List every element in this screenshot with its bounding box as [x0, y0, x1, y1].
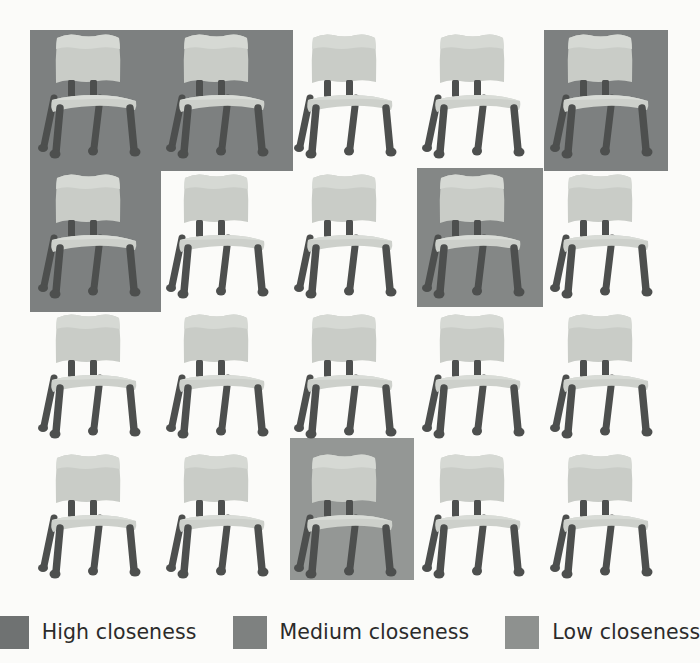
- chair-leg-front-left: [56, 108, 60, 152]
- chair-cell-r3-c1: [30, 308, 156, 450]
- legend-swatch-low: [505, 616, 539, 649]
- chair-back-post-right: [346, 80, 353, 97]
- chair-backrest-highlight: [568, 34, 632, 49]
- chair-backrest-highlight: [184, 174, 248, 189]
- chair-illustration: [414, 28, 540, 170]
- chair-backrest-highlight: [312, 454, 376, 469]
- chair-back-post-right: [346, 360, 353, 377]
- chair-illustration: [286, 168, 412, 310]
- chair-leg-front-left: [56, 528, 60, 572]
- chair-leg-front-right: [514, 108, 518, 150]
- chair-illustration: [158, 308, 284, 450]
- chair-leg-front-left: [568, 108, 572, 152]
- chair-foot-front-left: [434, 430, 445, 439]
- chair-foot-front-left: [562, 570, 573, 579]
- chair-foot-rear-right: [344, 287, 354, 296]
- chair-cell-r2-c2: [158, 168, 284, 310]
- chair-foot-rear-left: [550, 284, 560, 292]
- chair-leg-front-left: [440, 248, 444, 292]
- chair-leg-front-left: [312, 108, 316, 152]
- chair-cell-r4-c4: [414, 448, 540, 590]
- chair-illustration: [286, 308, 412, 450]
- chair-foot-front-left: [178, 430, 189, 439]
- chair-cell-r2-c3: [286, 168, 412, 310]
- chair-foot-rear-left: [294, 424, 304, 432]
- chair-backrest-highlight: [56, 454, 120, 469]
- chair-back-post-right: [346, 220, 353, 237]
- chair-foot-front-right: [514, 428, 525, 437]
- chair-leg-front-right: [642, 248, 646, 290]
- chair-foot-rear-left: [422, 144, 432, 152]
- chair-illustration: [158, 168, 284, 310]
- chair-foot-rear-right: [88, 567, 98, 576]
- chair-leg-front-left: [184, 388, 188, 432]
- chair-foot-front-left: [434, 150, 445, 159]
- chair-foot-rear-left: [38, 424, 48, 432]
- chair-illustration: [30, 448, 156, 590]
- legend-item-low: Low closeness: [505, 616, 700, 649]
- chair-leg-front-left: [568, 528, 572, 572]
- chair-back-post-right: [474, 220, 481, 237]
- chair-back-post-left: [324, 500, 331, 517]
- chair-foot-rear-right: [472, 147, 482, 156]
- chair-foot-front-right: [514, 148, 525, 157]
- chair-illustration: [158, 28, 284, 170]
- chair-leg-front-right: [642, 108, 646, 150]
- chair-foot-front-right: [642, 288, 653, 297]
- chair-cell-r3-c5: [542, 308, 668, 450]
- chair-cell-r4-c3: [286, 448, 412, 590]
- chair-leg-front-left: [312, 388, 316, 432]
- chair-back-post-left: [68, 500, 75, 517]
- chair-foot-front-right: [642, 428, 653, 437]
- chair-leg-front-right: [130, 108, 134, 150]
- legend: High closenessMedium closenessLow closen…: [0, 607, 695, 657]
- chair-backrest-highlight: [568, 454, 632, 469]
- chair-back-post-left: [452, 220, 459, 237]
- chair-foot-rear-left: [550, 424, 560, 432]
- chair-back-post-left: [196, 220, 203, 237]
- chair-foot-front-left: [434, 570, 445, 579]
- chair-foot-front-left: [50, 150, 61, 159]
- chair-cell-r3-c4: [414, 308, 540, 450]
- chair-illustration: [30, 168, 156, 310]
- chair-back-post-left: [580, 360, 587, 377]
- legend-swatch-medium: [233, 616, 267, 649]
- chair-illustration: [542, 448, 668, 590]
- chair-backrest-highlight: [184, 454, 248, 469]
- chair-leg-front-left: [184, 248, 188, 292]
- chair-foot-rear-right: [88, 427, 98, 436]
- chair-cell-r4-c1: [30, 448, 156, 590]
- chair-foot-rear-right: [88, 147, 98, 156]
- chair-foot-rear-left: [294, 284, 304, 292]
- chair-back-post-left: [580, 500, 587, 517]
- chair-foot-rear-right: [216, 567, 226, 576]
- chair-foot-rear-left: [166, 564, 176, 572]
- chair-foot-front-right: [386, 568, 397, 577]
- chair-foot-rear-right: [472, 567, 482, 576]
- chair-leg-front-left: [56, 388, 60, 432]
- chair-back-post-right: [218, 80, 225, 97]
- chair-illustration: [542, 28, 668, 170]
- chair-back-post-left: [452, 360, 459, 377]
- chair-cell-r3-c2: [158, 308, 284, 450]
- chair-foot-rear-left: [422, 424, 432, 432]
- chair-back-post-left: [324, 80, 331, 97]
- chair-foot-rear-right: [88, 287, 98, 296]
- chair-backrest-highlight: [184, 314, 248, 329]
- chair-foot-rear-right: [344, 147, 354, 156]
- chair-foot-front-left: [562, 430, 573, 439]
- chair-back-post-right: [474, 360, 481, 377]
- chair-foot-front-right: [258, 428, 269, 437]
- chair-back-post-left: [196, 360, 203, 377]
- chair-leg-front-right: [386, 528, 390, 570]
- chair-foot-rear-left: [550, 144, 560, 152]
- chair-illustration: [158, 448, 284, 590]
- chair-illustration: [30, 28, 156, 170]
- chair-foot-front-left: [178, 570, 189, 579]
- legend-item-high: High closeness: [0, 616, 233, 649]
- chair-back-post-left: [196, 80, 203, 97]
- chair-leg-front-left: [568, 248, 572, 292]
- chair-illustration: [542, 168, 668, 310]
- chair-cell-r2-c1: [30, 168, 156, 310]
